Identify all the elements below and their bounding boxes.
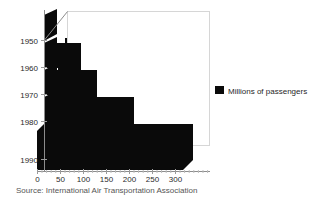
x-tick-label-300: 300 xyxy=(169,175,183,184)
chart-legend: Millions of passengers xyxy=(215,86,307,96)
legend-entry-label: Millions of passengers xyxy=(228,87,307,96)
bar-1950-front xyxy=(44,16,57,34)
chart-canvas: 1950 1960 1970 1980 1990 xyxy=(0,0,327,201)
x-tick-label-200: 200 xyxy=(123,175,137,184)
bar-1960-front xyxy=(44,43,81,68)
y-tick-label-1950: 1950 xyxy=(20,37,38,46)
bar-1990-bevel xyxy=(37,124,193,149)
y-tick-label-1970: 1970 xyxy=(20,91,38,100)
legend-swatch-icon xyxy=(215,86,224,94)
y-tick-label-1990: 1990 xyxy=(20,156,38,165)
x-tick-label-0: 0 xyxy=(35,175,40,184)
y-tick-label-1980: 1980 xyxy=(20,118,38,127)
x-tick-label-250: 250 xyxy=(146,175,160,184)
chart-figure: 1950 1960 1970 1980 1990 xyxy=(0,0,327,201)
x-tick-label-100: 100 xyxy=(77,175,91,184)
bar-1980-front xyxy=(44,97,134,122)
bar-1990 xyxy=(37,146,193,170)
y-tick-label-1960: 1960 xyxy=(20,64,38,73)
source-note: Source: International Air Transportation… xyxy=(16,186,197,195)
bar-group xyxy=(37,9,193,170)
x-tick-label-150: 150 xyxy=(100,175,114,184)
x-tick-label-50: 50 xyxy=(56,175,65,184)
bar-1970-front xyxy=(44,70,97,95)
